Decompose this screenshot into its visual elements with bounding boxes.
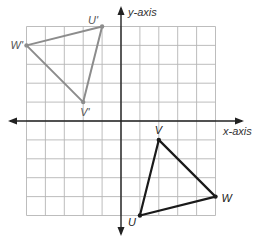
y-axis-down-arrow-icon: [118, 227, 125, 236]
vertex-label: V': [80, 106, 90, 118]
x-axis-left-arrow-icon: [8, 118, 17, 125]
x-axis-label: x-axis: [222, 125, 252, 137]
triangle-original: UVW: [128, 124, 234, 228]
x-axis-right-arrow-icon: [235, 118, 244, 125]
y-axis-up-arrow-icon: [118, 6, 125, 15]
vertex-label: V: [155, 124, 164, 136]
vertex-label: W': [11, 39, 24, 51]
vertex-label: U: [128, 216, 136, 228]
coordinate-plane: x-axis y-axis UVWU'V'W': [0, 0, 258, 238]
y-axis-label: y-axis: [127, 6, 157, 18]
vertex-point: [100, 24, 104, 28]
vertex-point: [24, 43, 28, 47]
vertex-point: [81, 100, 85, 104]
vertex-point: [213, 194, 217, 198]
vertex-label: W: [222, 192, 234, 204]
vertex-point: [157, 138, 161, 142]
vertex-point: [138, 213, 142, 217]
vertex-label: U': [88, 14, 99, 26]
